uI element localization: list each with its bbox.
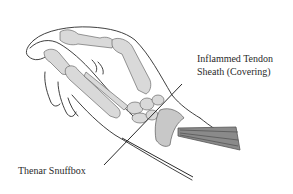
anatomy-diagram: Inflammed Tendon Sheath (Covering) Thena… <box>0 0 293 194</box>
label-inflammed-tendon-sheath: Inflammed Tendon Sheath (Covering) <box>197 53 273 78</box>
tendon-sheath <box>155 109 184 147</box>
label-line-2: Sheath (Covering) <box>197 66 273 79</box>
tendon-strands <box>178 127 240 150</box>
label-line-1: Inflammed Tendon <box>197 53 273 66</box>
leader-line-snuffbox <box>122 138 193 177</box>
bones <box>44 30 164 123</box>
label-thenar-snuffbox: Thenar Snuffbox <box>18 165 86 178</box>
